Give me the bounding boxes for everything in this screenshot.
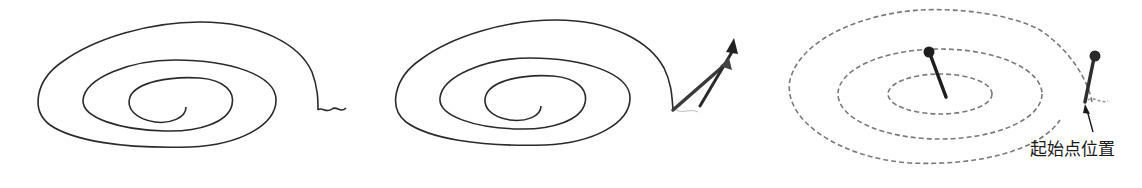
label-leader-arrow <box>1083 104 1093 132</box>
pin-head-icon <box>924 47 935 58</box>
arrowhead-icon <box>726 38 738 54</box>
spiral-diagram <box>0 0 1142 188</box>
panel-2-arrows <box>673 38 738 112</box>
start-pin <box>1085 51 1101 103</box>
arrowhead-icon <box>1083 104 1090 114</box>
center-pin <box>924 47 947 98</box>
start-position-label: 起始点位置 <box>1030 135 1115 160</box>
pin-head-icon <box>1090 51 1101 62</box>
panel-2-spiral <box>396 20 673 145</box>
squiggle-tail <box>318 108 346 111</box>
panel-1-spiral <box>38 22 346 147</box>
